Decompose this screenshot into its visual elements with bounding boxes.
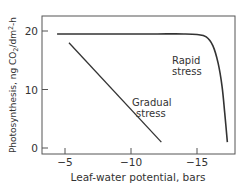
x-axis: −5−10−15 (57, 148, 208, 168)
rapid-stress-label: Rapidstress (172, 55, 202, 77)
x-axis-label: Leaf-water potential, bars (71, 171, 206, 183)
gradual-stress-line (69, 43, 161, 142)
y-tick-label: 20 (25, 25, 38, 37)
series-group (57, 34, 227, 142)
y-tick-label: 0 (31, 142, 38, 154)
gradual-stress-label: Gradualstress (132, 97, 172, 119)
photosynthesis-chart: 01020 −5−10−15 RapidstressGradualstress … (0, 0, 244, 186)
series-labels: RapidstressGradualstress (132, 55, 202, 119)
y-tick-label: 10 (25, 84, 38, 96)
y-axis-label: Photosynthesis, ng CO2/dm2-h (7, 17, 20, 153)
rapid-stress-line (57, 34, 227, 142)
x-tick-label: −10 (120, 156, 142, 168)
x-tick-label: −15 (186, 156, 208, 168)
y-axis: 01020 (25, 25, 48, 154)
x-tick-label: −5 (57, 156, 72, 168)
